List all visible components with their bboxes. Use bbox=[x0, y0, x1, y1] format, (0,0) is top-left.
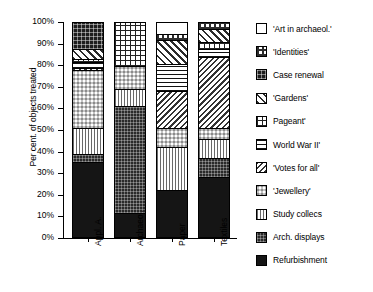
bar-segment bbox=[157, 64, 187, 92]
y-tick-mark bbox=[58, 238, 63, 239]
x-tick-mark bbox=[88, 238, 89, 242]
y-tick-mark bbox=[58, 65, 63, 66]
y-tick-mark bbox=[58, 108, 63, 109]
bar-segment bbox=[157, 128, 187, 147]
x-tick-mark bbox=[172, 238, 173, 242]
bar-segment bbox=[73, 154, 103, 163]
legend-item[interactable]: Pageant' bbox=[256, 110, 372, 133]
legend: 'Art in archaeol.''Identities'Case renew… bbox=[256, 17, 372, 272]
legend-swatch-icon bbox=[256, 232, 267, 243]
bar-segment bbox=[157, 23, 187, 34]
legend-label: World War II' bbox=[273, 140, 320, 150]
bar-segment bbox=[115, 23, 145, 66]
y-tick-mark bbox=[58, 152, 63, 153]
y-tick-label: 100% bbox=[14, 16, 54, 26]
y-tick-mark bbox=[58, 22, 63, 23]
y-tick-label: 40% bbox=[14, 146, 54, 156]
y-tick-mark bbox=[58, 195, 63, 196]
legend-label: Study collecs bbox=[273, 209, 322, 219]
legend-label: 'Identities' bbox=[273, 47, 309, 57]
bar-segment bbox=[157, 91, 187, 127]
x-axis-label: Paper bbox=[177, 186, 187, 246]
bar-segment bbox=[199, 57, 229, 128]
legend-item[interactable]: 'Votes for all' bbox=[256, 156, 372, 179]
legend-swatch-icon bbox=[256, 162, 267, 173]
legend-swatch-icon bbox=[256, 209, 267, 220]
legend-label: Refurbishment bbox=[273, 255, 327, 265]
legend-label: Arch. displays bbox=[273, 232, 325, 242]
x-axis-line bbox=[63, 238, 237, 239]
legend-swatch-icon bbox=[256, 139, 267, 150]
y-tick-mark bbox=[58, 173, 63, 174]
plot-area bbox=[64, 22, 236, 238]
legend-label: 'Art in archaeol.' bbox=[273, 24, 332, 34]
legend-label: 'Votes for all' bbox=[273, 163, 319, 173]
bar-segment bbox=[157, 40, 187, 64]
legend-swatch-icon bbox=[256, 185, 267, 196]
legend-label: 'Gardens' bbox=[273, 93, 308, 103]
legend-label: Case renewal bbox=[273, 70, 324, 80]
y-tick-label: 90% bbox=[14, 38, 54, 48]
legend-item[interactable]: Case renewal bbox=[256, 63, 372, 86]
y-tick-mark bbox=[58, 87, 63, 88]
legend-swatch-icon bbox=[256, 255, 267, 266]
legend-swatch-icon bbox=[256, 23, 267, 34]
legend-swatch-icon bbox=[256, 46, 267, 57]
x-axis-label: Textiles bbox=[219, 186, 229, 246]
bar-segment bbox=[157, 147, 187, 190]
legend-item[interactable]: 'Gardens' bbox=[256, 87, 372, 110]
y-tick-label: 80% bbox=[14, 59, 54, 69]
legend-swatch-icon bbox=[256, 116, 267, 127]
bar-segment bbox=[115, 66, 145, 90]
legend-item[interactable]: Refurbishment bbox=[256, 249, 372, 272]
bar-segment bbox=[73, 70, 103, 128]
y-tick-mark bbox=[58, 130, 63, 131]
bar-segment bbox=[199, 139, 229, 158]
legend-item[interactable]: Arch. displays bbox=[256, 226, 372, 249]
y-tick-mark bbox=[58, 216, 63, 217]
bar-segment bbox=[115, 89, 145, 106]
legend-swatch-icon bbox=[256, 69, 267, 80]
x-tick-mark bbox=[214, 238, 215, 242]
legend-item[interactable]: 'Jewellery' bbox=[256, 179, 372, 202]
y-tick-label: 50% bbox=[14, 124, 54, 134]
bar-segment bbox=[73, 128, 103, 154]
x-axis-label: Appl. A. bbox=[93, 186, 103, 246]
bar-segment bbox=[199, 128, 229, 139]
legend-item[interactable]: 'Art in archaeol.' bbox=[256, 17, 372, 40]
y-tick-label: 20% bbox=[14, 189, 54, 199]
bar-segment bbox=[73, 49, 103, 60]
legend-item[interactable]: 'Identities' bbox=[256, 40, 372, 63]
legend-label: 'Jewellery' bbox=[273, 186, 311, 196]
bar-segment bbox=[199, 49, 229, 58]
bar-segment bbox=[199, 158, 229, 177]
y-tick-label: 60% bbox=[14, 102, 54, 112]
y-tick-label: 0% bbox=[14, 232, 54, 242]
legend-item[interactable]: World War II' bbox=[256, 133, 372, 156]
bar-segment bbox=[73, 23, 103, 49]
legend-item[interactable]: Study collecs bbox=[256, 203, 372, 226]
legend-label: Pageant' bbox=[273, 116, 306, 126]
x-tick-mark bbox=[130, 238, 131, 242]
y-tick-label: 30% bbox=[14, 167, 54, 177]
legend-swatch-icon bbox=[256, 93, 267, 104]
y-tick-label: 70% bbox=[14, 81, 54, 91]
y-tick-label: 10% bbox=[14, 210, 54, 220]
y-tick-mark bbox=[58, 44, 63, 45]
bar-segment bbox=[199, 29, 229, 42]
chart-container: Per cent. of objects treated 100%90%80%7… bbox=[0, 0, 373, 292]
x-axis-label: Archaeol. bbox=[135, 186, 145, 246]
